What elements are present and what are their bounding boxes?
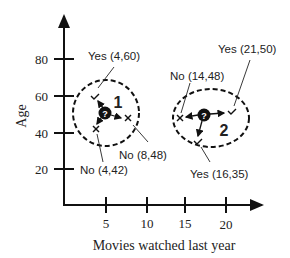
knn-diagram: 80 60 40 20 5 10 15 20 Movies watched la… bbox=[0, 0, 290, 258]
cluster-1-label: 1 bbox=[114, 94, 123, 111]
y-tick-label-60: 60 bbox=[35, 89, 48, 104]
y-tick-label-80: 80 bbox=[35, 52, 48, 67]
query-mark-1: ? bbox=[102, 109, 108, 119]
cluster-1: ? 1 Yes (4,60) No (8,48) No (4,42) bbox=[73, 50, 167, 176]
y-axis-label: Age bbox=[14, 104, 29, 127]
x-tick-label-20: 20 bbox=[220, 217, 233, 232]
label-yes-4-60: Yes (4,60) bbox=[88, 50, 140, 62]
label-no-14-48: No (14,48) bbox=[170, 70, 225, 82]
x-tick-label-15: 15 bbox=[179, 216, 192, 231]
check-icon bbox=[194, 139, 202, 144]
check-icon bbox=[91, 94, 99, 99]
check-icon bbox=[228, 109, 236, 114]
label-no-4-42: No (4,42) bbox=[80, 164, 128, 176]
cluster-2: ? 2 No (14,48) Yes (21,50) Yes (16,35) bbox=[170, 43, 277, 180]
cluster-2-boundary bbox=[173, 89, 249, 147]
cross-icon bbox=[177, 115, 183, 121]
label-yes-21-50: Yes (21,50) bbox=[218, 43, 277, 55]
y-tick-label-40: 40 bbox=[35, 126, 48, 141]
x-tick-label-5: 5 bbox=[103, 216, 110, 231]
cross-icon bbox=[125, 115, 131, 121]
label-yes-16-35: Yes (16,35) bbox=[190, 168, 249, 180]
label-no-8-48: No (8,48) bbox=[119, 149, 167, 161]
cross-icon bbox=[93, 126, 99, 132]
query-mark-2: ? bbox=[201, 111, 207, 121]
x-axis-label: Movies watched last year bbox=[93, 238, 236, 253]
y-tick-label-20: 20 bbox=[35, 162, 48, 177]
x-tick-label-10: 10 bbox=[141, 216, 154, 231]
cluster-2-label: 2 bbox=[220, 122, 229, 139]
